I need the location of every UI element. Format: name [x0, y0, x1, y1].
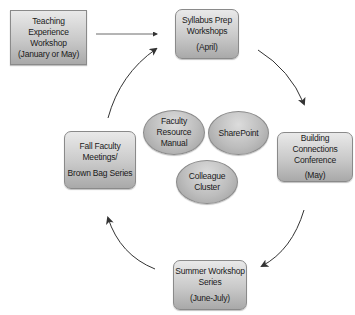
resource-label-line2: Resource: [157, 127, 192, 138]
node-label-line3: Brown Bag Series: [68, 168, 133, 179]
node-label-line3: (May): [305, 170, 326, 181]
arrow-fall-to-syllabus: [108, 49, 156, 118]
node-label-line2: Meetings/: [82, 152, 117, 163]
node-summer-workshop-series: Summer Workshop Series (June-July): [173, 260, 247, 310]
resource-colleague-cluster: Colleague Cluster: [176, 160, 238, 204]
node-label-line2: Workshop: [30, 38, 67, 49]
resource-label-line1: Colleague: [189, 171, 225, 182]
arrow-building-to-summer: [262, 210, 304, 266]
resource-sharepoint: SharePoint: [208, 111, 269, 155]
node-building-connections-conference: Building Connections Conference (May): [277, 132, 353, 182]
resource-faculty-resource-manual: Faculty Resource Manual: [143, 110, 205, 155]
node-label-line1: Summer Workshop: [175, 266, 245, 277]
node-label-line1: Fall Faculty: [79, 141, 120, 152]
node-label-line1: Building Connections: [278, 133, 352, 155]
arrow-syllabus-to-building: [258, 50, 304, 104]
node-label-line2: Series: [199, 277, 222, 288]
node-label-line3: (January or May): [18, 49, 79, 60]
node-syllabus-prep-workshops: Syllabus Prep Workshops (April): [175, 9, 239, 59]
resource-label-line1: Faculty: [161, 116, 187, 127]
node-label-line2: Conference: [294, 155, 336, 166]
node-label-line1: Teaching Experience: [11, 16, 86, 38]
node-label-line1: Syllabus Prep: [182, 15, 232, 26]
resource-label-line1: SharePoint: [218, 128, 258, 139]
node-teaching-experience-workshop: Teaching Experience Workshop (January or…: [10, 10, 87, 65]
node-label-line3: (April): [196, 42, 217, 53]
arrow-summer-to-fall: [108, 218, 155, 269]
node-label-line3: (June-July): [190, 293, 230, 304]
resource-label-line3: Manual: [161, 138, 188, 149]
resource-label-line2: Cluster: [194, 182, 220, 193]
node-label-line2: Workshops: [187, 26, 228, 37]
node-fall-faculty-meetings: Fall Faculty Meetings/ Brown Bag Series: [64, 131, 136, 189]
